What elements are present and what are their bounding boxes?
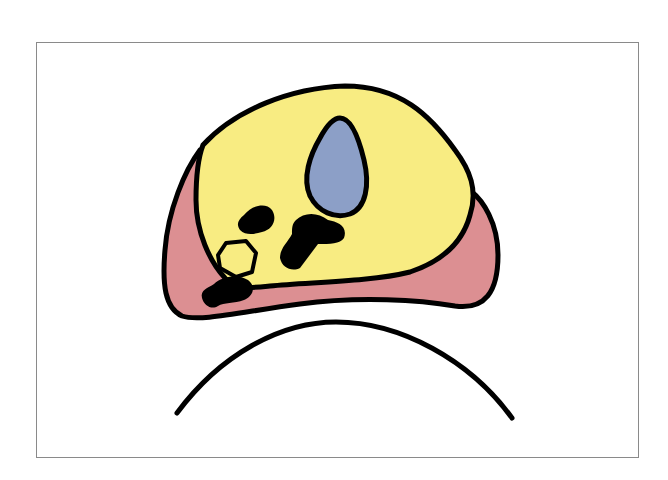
cross-section-diagram: [0, 0, 668, 480]
lower-arc: [177, 322, 512, 418]
small-hexagon: [218, 241, 256, 277]
